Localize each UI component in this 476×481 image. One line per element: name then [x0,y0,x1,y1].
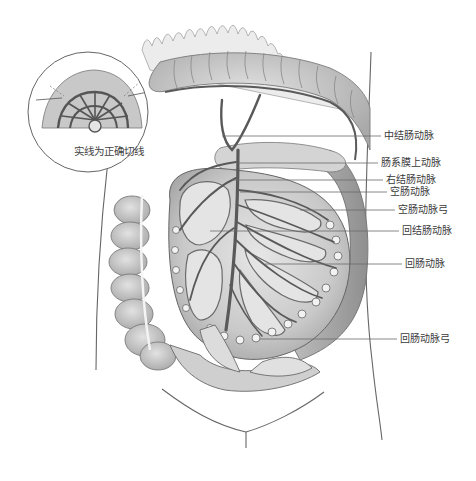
label-ileal-arcade: 回肠动脉弓 [400,333,450,345]
inset-caption: 实线为正确切线 [74,143,144,158]
label-jejunal-arcade: 空肠动脉弓 [398,204,448,216]
label-ileal-artery: 回肠动脉 [405,258,445,270]
label-middle-colic-artery: 中结肠动脉 [384,130,434,142]
transverse-colon [149,51,370,150]
label-right-colic-artery: 右结肠动脉 [386,174,436,186]
label-ileocolic-artery: 回结肠动脉 [402,225,452,237]
anatomy-figure [0,0,476,481]
label-jejunal-artery: 空肠动脉 [390,186,430,198]
label-superior-mesenteric-artery: 肠系膜上动脉 [381,157,441,169]
